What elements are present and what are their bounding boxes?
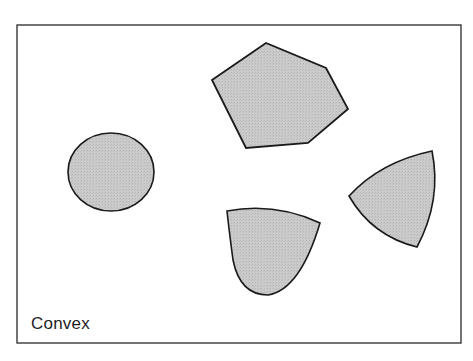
circle-shape — [68, 133, 154, 211]
figure-caption: Convex — [31, 314, 90, 334]
convex-shapes-figure — [0, 0, 473, 361]
reuleaux-triangle-shape — [349, 151, 435, 247]
teardrop-shape — [227, 208, 320, 295]
hexagon-shape — [212, 43, 348, 148]
